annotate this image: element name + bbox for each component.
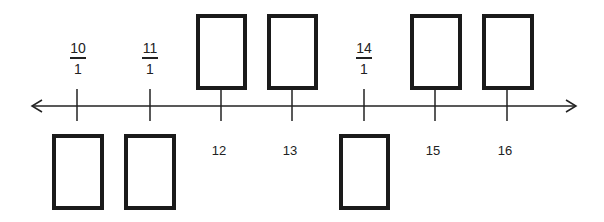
fraction-label-14: 14 1 (344, 40, 384, 77)
fraction-bar (142, 57, 158, 59)
answer-box-13[interactable] (267, 14, 318, 90)
tick-label-13: 13 (270, 143, 310, 158)
tick-label-16: 16 (485, 143, 525, 158)
tick-label-12: 12 (199, 143, 239, 158)
answer-box-15[interactable] (410, 14, 462, 90)
answer-box-10[interactable] (52, 134, 104, 210)
numerator: 14 (344, 40, 384, 56)
fraction-label-11: 11 1 (130, 40, 170, 77)
denominator: 1 (58, 61, 98, 77)
ticks (77, 89, 507, 121)
answer-box-14[interactable] (339, 134, 390, 210)
fraction-bar (356, 57, 372, 59)
numerator: 10 (58, 40, 98, 56)
fraction-bar (70, 57, 86, 59)
answer-box-11[interactable] (124, 134, 176, 210)
numerator: 11 (130, 40, 170, 56)
fraction-label-10: 10 1 (58, 40, 98, 77)
denominator: 1 (344, 61, 384, 77)
denominator: 1 (130, 61, 170, 77)
answer-box-12[interactable] (196, 14, 247, 90)
answer-box-16[interactable] (482, 14, 534, 90)
tick-label-15: 15 (413, 143, 453, 158)
